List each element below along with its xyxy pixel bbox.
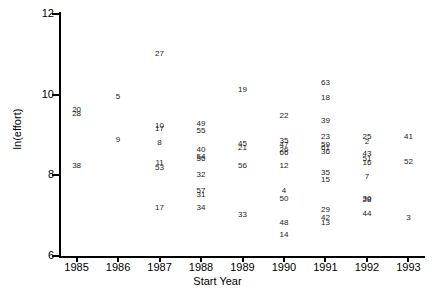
x-tick-label-1988: 1988	[181, 261, 221, 273]
y-tick-label-6: 6	[28, 250, 54, 261]
y-tick-label-12: 12	[28, 8, 54, 19]
data-point-label: 19	[238, 86, 247, 94]
data-point-label: 9	[116, 136, 120, 144]
x-tick-label-1986: 1986	[98, 261, 138, 273]
data-point-label: 28	[72, 110, 81, 118]
data-point-label: 12	[280, 162, 289, 170]
data-point-label: 50	[280, 195, 289, 203]
scatter-plot: 681012 198519861987198819891990199119921…	[0, 0, 435, 290]
x-tick-label-1990: 1990	[264, 261, 304, 273]
x-axis-title: Start Year	[0, 275, 435, 287]
data-point-label: 33	[238, 211, 247, 219]
x-tick-label-1992: 1992	[347, 261, 387, 273]
data-point-label: 27	[155, 50, 164, 58]
data-point-label: 66	[280, 149, 289, 157]
y-tick-label-8: 8	[28, 169, 54, 180]
data-point-label: 34	[197, 204, 206, 212]
x-tick-label-1987: 1987	[140, 261, 180, 273]
data-point-label: 44	[362, 210, 371, 218]
data-point-label: 17	[155, 204, 164, 212]
data-point-label: 5	[116, 93, 120, 101]
data-point-label: 52	[404, 158, 413, 166]
data-point-label: 8	[157, 139, 161, 147]
data-point-label: 56	[238, 162, 247, 170]
data-point-label: 36	[321, 148, 330, 156]
x-tick-label-1989: 1989	[223, 261, 263, 273]
data-point-label: 7	[365, 173, 369, 181]
data-point-label: 53	[155, 164, 164, 172]
data-point-label: 56	[197, 155, 206, 163]
data-point-label: 3	[406, 214, 410, 222]
y-axis-title: ln(effort)	[11, 84, 23, 174]
y-tick-label-10: 10	[28, 89, 54, 100]
data-point-label: 41	[404, 133, 413, 141]
data-point-label: 38	[72, 162, 81, 170]
data-point-label: 13	[321, 219, 330, 227]
data-point-label: 39	[321, 117, 330, 125]
data-point-label: 21	[238, 144, 247, 152]
x-tick-label-1985: 1985	[57, 261, 97, 273]
data-point-label: 22	[280, 112, 289, 120]
data-point-label: 15	[321, 176, 330, 184]
data-point-label: 16	[362, 159, 371, 167]
y-axis-line	[59, 12, 61, 257]
data-point-label: 28	[362, 196, 371, 204]
data-point-label: 17	[155, 125, 164, 133]
data-point-label: 63	[321, 79, 330, 87]
data-point-label: 32	[197, 171, 206, 179]
data-point-label: 2	[365, 138, 369, 146]
data-point-label: 18	[321, 94, 330, 102]
x-tick-label-1991: 1991	[305, 261, 345, 273]
x-tick-label-1993: 1993	[388, 261, 428, 273]
data-point-label: 48	[280, 219, 289, 227]
data-point-label: 55	[197, 127, 206, 135]
data-point-label: 31	[197, 191, 206, 199]
data-point-label: 14	[280, 231, 289, 239]
